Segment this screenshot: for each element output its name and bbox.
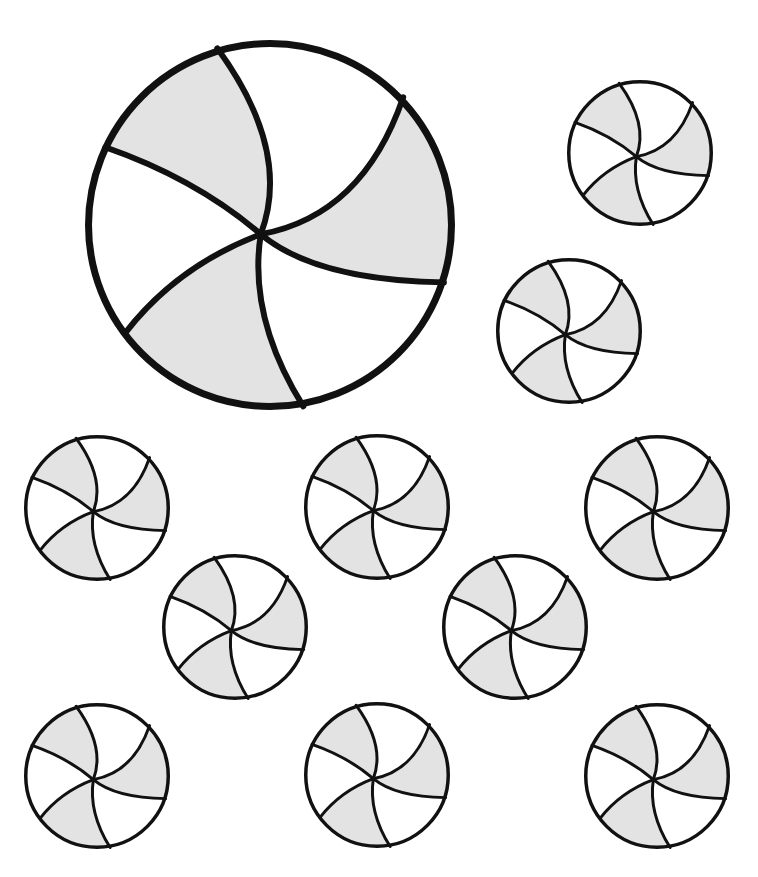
peppermint-swirl-icon (162, 554, 308, 700)
small-peppermint-candy (496, 258, 642, 404)
peppermint-swirl-icon (85, 40, 455, 410)
coloring-page-canvas: Peppermint candies coloring page (0, 0, 758, 877)
small-peppermint-candy (584, 435, 730, 581)
peppermint-swirl-icon (567, 80, 713, 226)
peppermint-swirl-icon (304, 702, 450, 848)
peppermint-swirl-icon (24, 703, 170, 849)
peppermint-swirl-icon (496, 258, 642, 404)
small-peppermint-candy (304, 702, 450, 848)
peppermint-swirl-icon (584, 435, 730, 581)
peppermint-swirl-icon (304, 434, 450, 580)
small-peppermint-candy (567, 80, 713, 226)
small-peppermint-candy (584, 703, 730, 849)
peppermint-swirl-icon (584, 703, 730, 849)
peppermint-swirl-icon (24, 435, 170, 581)
large-peppermint-candy (85, 40, 455, 410)
peppermint-swirl-icon (442, 554, 588, 700)
small-peppermint-candy (442, 554, 588, 700)
small-peppermint-candy (24, 435, 170, 581)
small-peppermint-candy (24, 703, 170, 849)
small-peppermint-candy (162, 554, 308, 700)
small-peppermint-candy (304, 434, 450, 580)
